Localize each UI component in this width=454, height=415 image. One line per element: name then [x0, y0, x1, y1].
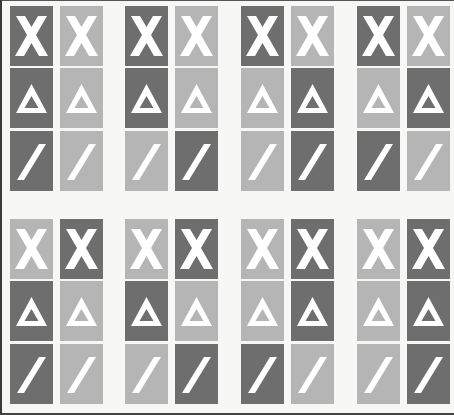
x-tile-dark: [241, 6, 284, 66]
slash-tile-light: [125, 131, 168, 191]
triangle-tile-light: [357, 68, 400, 128]
triangle-icon: [407, 281, 450, 341]
x-icon: [10, 219, 53, 279]
tile-group-5: [10, 219, 103, 415]
x-icon: [357, 219, 400, 279]
triangle-tile-light: [175, 68, 218, 128]
slash-tile-dark: [10, 131, 53, 191]
tile-group-1: [10, 6, 103, 206]
slash-tile-light: [241, 131, 284, 191]
triangle-icon: [357, 68, 400, 128]
triangle-tile-dark: [125, 68, 168, 128]
triangle-tile-dark: [10, 281, 53, 341]
triangle-icon: [291, 68, 334, 128]
x-tile-dark: [10, 6, 53, 66]
x-tile-light: [175, 6, 218, 66]
x-icon: [125, 219, 168, 279]
triangle-tile-light: [175, 281, 218, 341]
triangle-tile-dark: [291, 281, 334, 341]
slash-tile-light: [60, 344, 103, 404]
x-icon: [175, 6, 218, 66]
slash-icon: [175, 131, 218, 191]
tile-group-4: [357, 6, 450, 206]
triangle-tile-dark: [407, 68, 450, 128]
slash-icon: [10, 131, 53, 191]
x-tile-dark: [407, 219, 450, 279]
slash-tile-dark: [291, 131, 334, 191]
x-icon: [241, 219, 284, 279]
x-icon: [241, 6, 284, 66]
tile-group-8: [357, 219, 450, 415]
tile-group-2: [125, 6, 218, 206]
triangle-icon: [175, 281, 218, 341]
triangle-icon: [60, 281, 103, 341]
triangle-tile-light: [241, 68, 284, 128]
slash-tile-dark: [175, 344, 218, 404]
slash-icon: [60, 131, 103, 191]
slash-tile-light: [60, 131, 103, 191]
triangle-icon: [291, 281, 334, 341]
slash-icon: [241, 344, 284, 404]
x-tile-light: [407, 6, 450, 66]
triangle-tile-light: [241, 281, 284, 341]
x-tile-light: [291, 6, 334, 66]
slash-icon: [60, 344, 103, 404]
x-icon: [175, 219, 218, 279]
triangle-icon: [125, 281, 168, 341]
x-icon: [10, 6, 53, 66]
slash-icon: [357, 344, 400, 404]
slash-tile-dark: [407, 344, 450, 404]
triangle-icon: [125, 68, 168, 128]
slash-icon: [291, 131, 334, 191]
triangle-tile-light: [357, 281, 400, 341]
triangle-icon: [241, 68, 284, 128]
triangle-icon: [60, 68, 103, 128]
slash-tile-light: [291, 344, 334, 404]
slash-icon: [407, 131, 450, 191]
x-tile-dark: [60, 219, 103, 279]
x-tile-dark: [125, 6, 168, 66]
triangle-icon: [10, 68, 53, 128]
x-icon: [291, 219, 334, 279]
slash-icon: [241, 131, 284, 191]
x-icon: [60, 219, 103, 279]
slash-tile-light: [407, 131, 450, 191]
triangle-tile-dark: [125, 281, 168, 341]
slash-icon: [357, 131, 400, 191]
x-icon: [125, 6, 168, 66]
slash-tile-dark: [175, 131, 218, 191]
x-icon: [357, 6, 400, 66]
slash-icon: [125, 131, 168, 191]
tile-group-3: [241, 6, 334, 206]
triangle-icon: [241, 281, 284, 341]
triangle-icon: [175, 68, 218, 128]
triangle-tile-light: [60, 68, 103, 128]
x-tile-light: [241, 219, 284, 279]
triangle-icon: [10, 281, 53, 341]
x-tile-light: [125, 219, 168, 279]
x-icon: [407, 6, 450, 66]
x-tile-light: [10, 219, 53, 279]
frame-top-border: [0, 0, 454, 1]
slash-icon: [175, 344, 218, 404]
x-tile-dark: [291, 219, 334, 279]
triangle-tile-light: [60, 281, 103, 341]
slash-tile-dark: [10, 344, 53, 404]
x-icon: [407, 219, 450, 279]
slash-tile-light: [125, 344, 168, 404]
triangle-icon: [357, 281, 400, 341]
x-tile-dark: [357, 6, 400, 66]
x-tile-light: [60, 6, 103, 66]
tile-group-6: [125, 219, 218, 415]
slash-icon: [125, 344, 168, 404]
x-tile-light: [357, 219, 400, 279]
x-tile-dark: [175, 219, 218, 279]
frame-left-border: [0, 0, 2, 415]
tile-group-7: [241, 219, 334, 415]
slash-icon: [10, 344, 53, 404]
x-icon: [291, 6, 334, 66]
slash-tile-dark: [357, 131, 400, 191]
slash-tile-light: [357, 344, 400, 404]
triangle-tile-dark: [291, 68, 334, 128]
triangle-icon: [407, 68, 450, 128]
